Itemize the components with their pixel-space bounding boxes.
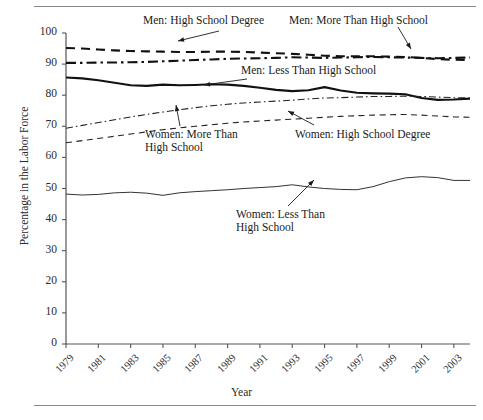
y-tick-label: 10	[27, 305, 57, 317]
x-axis-title: Year	[0, 386, 483, 398]
y-tick-label: 0	[27, 336, 57, 348]
series-line-5	[66, 177, 470, 196]
ann-women-hs: Women: High School Degree	[295, 128, 430, 141]
axes-group	[62, 33, 470, 348]
ann-women-less: Women: Less Than High School	[236, 208, 341, 234]
series-line-1	[66, 57, 470, 63]
y-tick-label: 50	[27, 181, 57, 193]
y-tick-label: 20	[27, 274, 57, 286]
y-axis-title: Percentage in the Labor Force	[18, 91, 30, 261]
y-tick-label: 100	[27, 25, 57, 37]
ann-men-hs-arrowhead	[178, 37, 184, 41]
ann-women-more-arrowhead	[175, 105, 179, 111]
ann-men-more: Men: More Than High School	[289, 14, 428, 27]
y-tick-label: 60	[27, 149, 57, 161]
y-tick-label: 70	[27, 118, 57, 130]
series-line-2	[66, 77, 470, 99]
y-tick-label: 30	[27, 243, 57, 255]
ann-women-hs-arrowhead	[288, 111, 294, 116]
ann-men-hs-arrow	[178, 31, 219, 41]
ann-men-more-arrowhead	[406, 43, 411, 49]
y-tick-label: 80	[27, 87, 57, 99]
series-line-3	[66, 96, 470, 128]
y-tick-label: 40	[27, 212, 57, 224]
figure-container: 0102030405060708090100 19791981198319851…	[0, 0, 483, 420]
ann-men-hs: Men: High School Degree	[143, 14, 264, 27]
ann-men-less: Men: Less Than High School	[241, 64, 376, 77]
ann-women-more: Women: More Than High School	[145, 128, 250, 154]
y-tick-label: 90	[27, 56, 57, 68]
